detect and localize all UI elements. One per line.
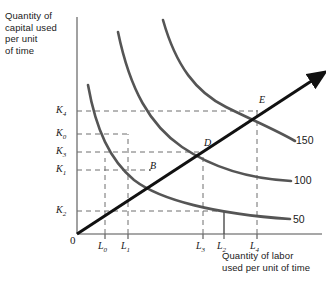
point-marker-E — [256, 110, 258, 112]
isoquant-curve-150 — [163, 20, 295, 141]
curve-label-100: 100 — [294, 174, 312, 186]
x-tick-base-L0: L — [98, 240, 104, 251]
y-tick-base-K1: K — [56, 163, 63, 174]
y-tick-label-K0: K0 — [56, 127, 66, 138]
y-axis-title: Quantity of capital used per unit of tim… — [5, 10, 75, 56]
isoquant-expansion-path-figure: Quantity of capital used per unit of tim… — [0, 0, 326, 281]
y-tick-sub-K2: 2 — [63, 210, 67, 218]
y-tick-base-K3: K — [56, 145, 63, 156]
point-marker-D — [202, 151, 204, 153]
y-tick-label-K4: K4 — [56, 104, 66, 115]
x-tick-sub-L0: 0 — [104, 246, 108, 254]
x-tick-label-L1: L1 — [121, 240, 130, 251]
y-tick-base-K0: K — [56, 127, 63, 138]
y-tick-sub-K3: 3 — [63, 151, 67, 159]
origin-label: 0 — [70, 234, 76, 246]
curve-label-150: 150 — [296, 134, 314, 146]
y-tick-sub-K4: 4 — [63, 110, 67, 118]
x-tick-label-L3: L3 — [196, 240, 205, 251]
y-tick-label-K2: K2 — [56, 204, 66, 215]
x-tick-sub-L4: 4 — [256, 246, 260, 254]
x-tick-sub-L3: 3 — [202, 246, 206, 254]
x-tick-sub-L2: 2 — [223, 246, 227, 254]
x-tick-label-L4: L4 — [250, 240, 259, 251]
x-tick-base-L1: L — [121, 240, 127, 251]
y-tick-sub-K0: 0 — [63, 133, 67, 141]
isoquant-curve-100 — [118, 32, 291, 181]
y-tick-base-K4: K — [56, 104, 63, 115]
x-tick-base-L4: L — [250, 240, 256, 251]
x-tick-label-L0: L0 — [98, 240, 107, 251]
x-tick-base-L2: L — [217, 240, 223, 251]
y-tick-label-K1: K1 — [56, 163, 66, 174]
x-tick-label-L2: L2 — [217, 240, 226, 251]
curve-label-50: 50 — [293, 213, 305, 225]
point-label-D: D — [204, 137, 211, 148]
point-label-B: B — [150, 160, 156, 171]
x-axis-title: Quantity of labor used per unit of time — [222, 250, 326, 273]
point-label-E: E — [259, 94, 265, 105]
y-tick-base-K2: K — [56, 204, 63, 215]
x-tick-base-L3: L — [196, 240, 202, 251]
x-tick-sub-L1: 1 — [127, 246, 131, 254]
y-tick-label-K3: K3 — [56, 145, 66, 156]
y-tick-sub-K1: 1 — [63, 169, 67, 177]
